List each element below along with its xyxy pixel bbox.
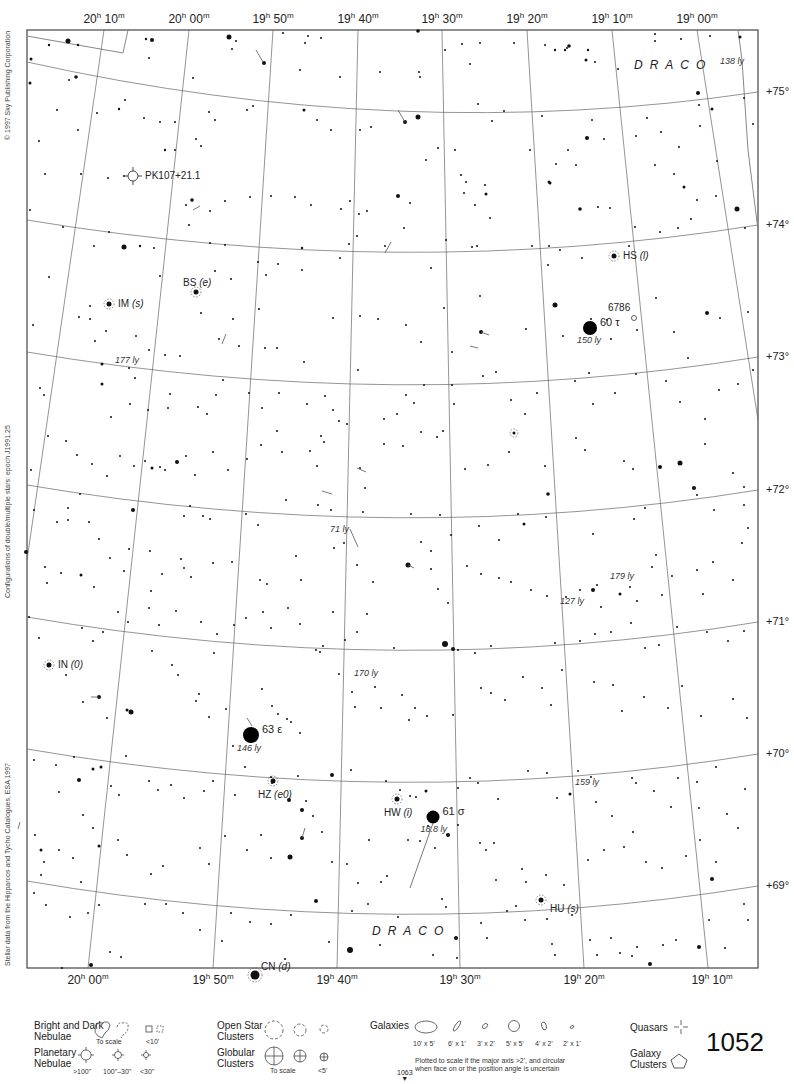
star bbox=[418, 71, 420, 73]
star bbox=[249, 196, 251, 198]
star bbox=[463, 192, 465, 194]
star bbox=[718, 389, 720, 391]
star bbox=[165, 903, 167, 905]
star bbox=[175, 460, 179, 464]
star bbox=[477, 103, 479, 105]
star bbox=[379, 944, 381, 946]
star bbox=[259, 579, 261, 581]
star bbox=[744, 227, 746, 229]
star bbox=[124, 99, 126, 101]
star bbox=[715, 861, 717, 863]
star bbox=[632, 468, 634, 470]
star bbox=[89, 963, 93, 967]
star bbox=[479, 295, 481, 297]
star bbox=[362, 511, 364, 513]
ra-tick-label: 20h 00m bbox=[67, 972, 108, 987]
star bbox=[258, 308, 260, 310]
star bbox=[328, 941, 330, 943]
star bbox=[118, 108, 120, 110]
star bbox=[65, 674, 67, 676]
star bbox=[102, 631, 104, 633]
star bbox=[709, 35, 711, 37]
star bbox=[444, 49, 446, 51]
star bbox=[290, 721, 292, 723]
star bbox=[333, 547, 335, 549]
variable-star-label: HW (i) bbox=[384, 807, 412, 818]
star bbox=[246, 458, 248, 460]
star bbox=[566, 47, 568, 49]
star bbox=[425, 159, 427, 161]
distance-label: 159 ly bbox=[575, 777, 599, 787]
star bbox=[413, 402, 415, 404]
star bbox=[486, 937, 488, 939]
star bbox=[189, 505, 191, 507]
star bbox=[195, 138, 197, 140]
star bbox=[403, 227, 405, 229]
star bbox=[224, 244, 226, 246]
star bbox=[545, 516, 547, 518]
legend-text: Clusters bbox=[217, 1058, 255, 1069]
star bbox=[487, 464, 489, 466]
star bbox=[611, 815, 613, 817]
star bbox=[480, 687, 482, 689]
star bbox=[82, 814, 84, 816]
star bbox=[503, 110, 505, 112]
star bbox=[633, 518, 635, 520]
star bbox=[715, 766, 717, 768]
star bbox=[508, 451, 510, 453]
star bbox=[265, 274, 267, 276]
star bbox=[34, 834, 36, 836]
star bbox=[432, 954, 434, 956]
star bbox=[300, 808, 304, 812]
star bbox=[405, 394, 407, 396]
star bbox=[654, 40, 656, 42]
legend-text: Globular bbox=[217, 1047, 255, 1058]
star bbox=[227, 35, 232, 40]
star bbox=[680, 38, 682, 40]
star bbox=[553, 303, 558, 308]
star bbox=[726, 813, 728, 815]
star bbox=[343, 542, 345, 544]
star bbox=[536, 392, 538, 394]
star bbox=[635, 135, 637, 137]
star bbox=[306, 403, 308, 405]
planetary-nebula-symbols bbox=[72, 1046, 162, 1066]
star bbox=[231, 48, 233, 50]
star bbox=[87, 912, 89, 914]
star bbox=[350, 769, 352, 771]
star bbox=[209, 518, 211, 520]
galaxy-symbols bbox=[412, 1017, 592, 1037]
star bbox=[78, 316, 80, 318]
dec-tick-label: +69° bbox=[766, 879, 789, 891]
ra-tick-label: 19h 40m bbox=[337, 11, 378, 26]
star bbox=[430, 267, 432, 269]
star bbox=[107, 177, 109, 179]
star bbox=[225, 708, 227, 710]
star bbox=[299, 732, 301, 734]
star bbox=[636, 600, 638, 602]
star bbox=[270, 195, 272, 197]
star bbox=[358, 213, 360, 215]
adjacent-page-link[interactable]: 1063 ▼ bbox=[397, 1069, 413, 1082]
star bbox=[713, 509, 715, 511]
star bbox=[44, 173, 46, 175]
star bbox=[705, 311, 709, 315]
star bbox=[300, 579, 302, 581]
star bbox=[305, 800, 307, 802]
star bbox=[737, 383, 739, 385]
star bbox=[144, 460, 146, 462]
star bbox=[476, 245, 478, 247]
star bbox=[461, 43, 463, 45]
star bbox=[587, 49, 589, 51]
star bbox=[105, 330, 107, 332]
star bbox=[357, 369, 359, 371]
legend-text: Galaxy bbox=[630, 1048, 667, 1059]
legend-open-clusters-title: Open Star Clusters bbox=[217, 1020, 263, 1042]
star bbox=[185, 204, 187, 206]
star bbox=[277, 263, 279, 265]
legend-text: 4' x 2' bbox=[535, 1038, 553, 1049]
star bbox=[157, 789, 159, 791]
star bbox=[125, 755, 127, 757]
star bbox=[213, 652, 215, 654]
star bbox=[743, 97, 745, 99]
